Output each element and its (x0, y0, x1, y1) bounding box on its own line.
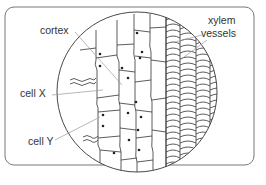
label-cell-x: cell X (20, 87, 46, 99)
label-cell-y: cell Y (28, 135, 54, 147)
label-xylem: xylem (208, 14, 236, 26)
label-cortex: cortex (40, 24, 69, 36)
root-diagram: cortex cell X cell Y xylem vessels (0, 0, 266, 185)
label-vessels: vessels (201, 27, 236, 39)
